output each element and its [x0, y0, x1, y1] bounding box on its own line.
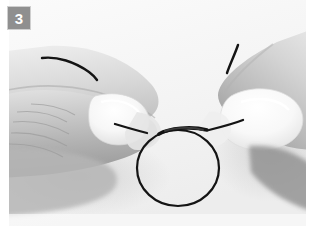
- step-number-label: 3: [15, 11, 23, 26]
- step-number-badge: 3: [8, 7, 30, 29]
- photo-bottom-fade: [9, 214, 306, 226]
- figure-container: 3: [0, 0, 314, 237]
- photo-illustration: [9, 0, 306, 226]
- instructional-photo: [9, 0, 306, 226]
